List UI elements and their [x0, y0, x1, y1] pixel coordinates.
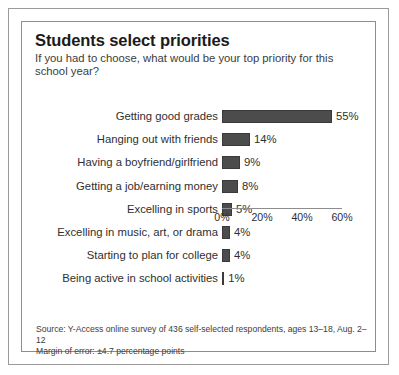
bar-track: 8% — [222, 176, 377, 197]
source-line-2: Margin of error: ±4.7 percentage points — [36, 346, 367, 357]
bar-category-label: Excelling in music, art, or drama — [22, 222, 218, 243]
bar-category-label: Excelling in sports — [22, 199, 218, 220]
bar-track: 9% — [222, 152, 377, 173]
bar-row: Getting good grades55% — [22, 106, 377, 127]
source-note: Source: Y-Access online survey of 436 se… — [36, 324, 367, 357]
bar-row: Hanging out with friends14% — [22, 129, 377, 150]
bar-track: 4% — [222, 222, 377, 243]
chart-title: Students select priorities — [35, 30, 365, 50]
bar-value-label: 4% — [234, 222, 250, 243]
bar — [222, 110, 332, 123]
bar — [222, 249, 230, 262]
bar-row: Starting to plan for college4% — [22, 245, 377, 266]
bar-row: Excelling in music, art, or drama4% — [22, 222, 377, 243]
x-axis-tick-label: 60% — [331, 211, 352, 223]
bar-track: 14% — [222, 129, 377, 150]
bar-track: 1% — [222, 268, 377, 289]
x-axis-tick-labels: 0%20%40%60% — [222, 211, 382, 225]
bar-value-label: 55% — [336, 106, 359, 127]
bar-track: 4% — [222, 245, 377, 266]
bar-row: Being active in school activities1% — [22, 268, 377, 289]
bar — [222, 156, 240, 169]
x-axis-line — [222, 208, 342, 209]
bar-row: Having a boyfriend/girlfriend9% — [22, 152, 377, 173]
bar-category-label: Getting good grades — [22, 106, 218, 127]
bar-category-label: Getting a job/earning money — [22, 176, 218, 197]
bar-value-label: 4% — [234, 245, 250, 266]
chart-panel: Students select priorities If you had to… — [21, 21, 376, 352]
bar-category-label: Hanging out with friends — [22, 129, 218, 150]
chart-header: Students select priorities If you had to… — [35, 30, 365, 78]
x-axis-tick-label: 20% — [251, 211, 272, 223]
x-axis-tick-label: 40% — [291, 211, 312, 223]
bar — [222, 226, 230, 239]
bar-category-label: Being active in school activities — [22, 268, 218, 289]
chart-outer-frame: Students select priorities If you had to… — [8, 8, 389, 365]
bar-row: Getting a job/earning money8% — [22, 176, 377, 197]
bar — [222, 180, 238, 193]
bar-value-label: 1% — [228, 268, 244, 289]
bar-value-label: 14% — [254, 129, 277, 150]
source-line-1: Source: Y-Access online survey of 436 se… — [36, 324, 367, 346]
bar-category-label: Having a boyfriend/girlfriend — [22, 152, 218, 173]
x-axis-tick-label: 0% — [214, 211, 229, 223]
bar-value-label: 8% — [242, 176, 258, 197]
chart-subtitle: If you had to choose, what would be your… — [35, 52, 365, 78]
bar-value-label: 9% — [244, 152, 260, 173]
bar — [222, 272, 224, 285]
bar-track: 55% — [222, 106, 377, 127]
bar — [222, 133, 250, 146]
bar-category-label: Starting to plan for college — [22, 245, 218, 266]
